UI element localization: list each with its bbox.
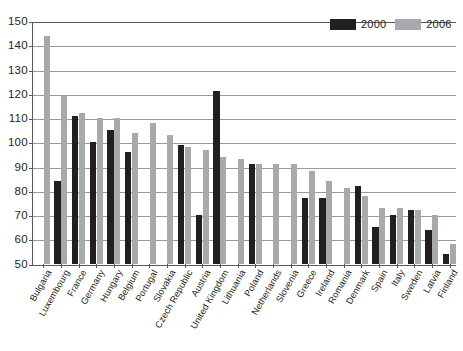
bar-group — [211, 22, 229, 264]
bar-2006 — [150, 123, 156, 264]
bar-2000 — [54, 181, 60, 263]
bar-group — [282, 22, 300, 264]
y-axis-tick-label: 100 — [0, 136, 28, 148]
bar-2000 — [107, 130, 113, 263]
plot-area — [32, 22, 456, 266]
bar-2000 — [213, 91, 219, 263]
bar-2000 — [408, 210, 414, 263]
bar-group — [70, 22, 88, 264]
y-axis-tick-mark — [29, 240, 33, 241]
legend-item-2006: 2006 — [395, 18, 451, 30]
bar-group — [158, 22, 176, 264]
x-axis-labels: BulgariaLuxembourgFranceGermanyHungaryBe… — [32, 268, 456, 348]
y-axis-tick-label: 60 — [0, 233, 28, 245]
chart-title-cutoff — [0, 0, 463, 10]
y-axis-tick-mark — [29, 46, 33, 47]
bar-2000 — [196, 215, 202, 264]
bar-2006 — [273, 164, 279, 263]
bar-group — [317, 22, 335, 264]
x-axis-tick-mark — [167, 264, 168, 268]
bar-group — [299, 22, 317, 264]
bar-2006 — [185, 147, 191, 263]
bar-2006 — [397, 208, 403, 264]
x-axis-label: Italy — [389, 268, 406, 288]
x-axis-tick-mark — [326, 264, 327, 268]
x-axis-tick-mark — [220, 264, 221, 268]
bar-2006 — [167, 135, 173, 264]
y-axis-tick-label: 120 — [0, 88, 28, 100]
y-axis-tick-label: 80 — [0, 185, 28, 197]
bar-2000 — [355, 186, 361, 264]
bar-2006 — [432, 215, 438, 264]
bar-2000 — [302, 198, 308, 264]
y-axis-tick-mark — [29, 22, 33, 23]
bar-2006 — [79, 113, 85, 263]
y-axis-tick-mark — [29, 95, 33, 96]
bar-2000 — [390, 215, 396, 264]
bar-2006 — [44, 36, 50, 264]
bar-2006 — [220, 157, 226, 264]
y-axis-tick-mark — [29, 192, 33, 193]
bar-group — [229, 22, 247, 264]
bar-chart: 1501401301201101009080706050 BulgariaLux… — [0, 0, 463, 351]
bar-group — [123, 22, 141, 264]
bar-2006 — [132, 133, 138, 264]
x-axis-label: Spain — [369, 268, 390, 294]
bar-2000 — [425, 230, 431, 264]
x-axis-tick-mark — [114, 264, 115, 268]
bar-2006 — [61, 96, 67, 263]
y-axis-tick-label: 70 — [0, 209, 28, 221]
y-axis-tick-label: 150 — [0, 15, 28, 27]
x-axis-tick-mark — [379, 264, 380, 268]
legend-label-2000: 2000 — [361, 18, 386, 30]
bar-group — [193, 22, 211, 264]
chart-source-cutoff — [0, 343, 463, 351]
bar-group — [246, 22, 264, 264]
bar-2006 — [415, 210, 421, 263]
y-axis-tick-mark — [29, 119, 33, 120]
bar-2000 — [90, 142, 96, 263]
bar-2006 — [326, 181, 332, 263]
bar-2000 — [319, 198, 325, 264]
y-axis-tick-label: 130 — [0, 64, 28, 76]
bar-2006 — [97, 118, 103, 264]
bars-container — [34, 22, 456, 264]
y-axis-tick-mark — [29, 216, 33, 217]
y-axis-tick-mark — [29, 143, 33, 144]
y-axis-tick-mark — [29, 265, 33, 266]
bar-2006 — [379, 208, 385, 264]
bar-2006 — [309, 171, 315, 263]
y-axis-tick-mark — [29, 168, 33, 169]
bar-2000 — [372, 227, 378, 263]
bar-group — [87, 22, 105, 264]
bar-2000 — [443, 254, 449, 264]
bar-group — [352, 22, 370, 264]
bar-group — [370, 22, 388, 264]
bar-2006 — [114, 118, 120, 264]
bar-2006 — [203, 150, 209, 264]
bar-2006 — [362, 196, 368, 264]
bar-group — [140, 22, 158, 264]
y-axis-tick-label: 90 — [0, 161, 28, 173]
bar-2006 — [291, 164, 297, 263]
bar-2006 — [238, 159, 244, 263]
bar-2000 — [72, 116, 78, 264]
bar-group — [264, 22, 282, 264]
bar-2000 — [249, 164, 255, 263]
legend-label-2006: 2006 — [426, 18, 451, 30]
legend-swatch-2000-icon — [330, 19, 356, 30]
y-axis-tick-label: 110 — [0, 112, 28, 124]
bar-2006 — [256, 164, 262, 263]
y-axis-tick-label: 50 — [0, 258, 28, 270]
x-axis-tick-mark — [432, 264, 433, 268]
bar-group — [105, 22, 123, 264]
bar-2000 — [125, 152, 131, 264]
bar-group — [423, 22, 441, 264]
bar-2006 — [344, 188, 350, 263]
bar-group — [176, 22, 194, 264]
bar-group — [335, 22, 353, 264]
bar-group — [441, 22, 459, 264]
bar-group — [388, 22, 406, 264]
chart-legend: 2000 2006 — [330, 18, 452, 30]
bar-group — [52, 22, 70, 264]
